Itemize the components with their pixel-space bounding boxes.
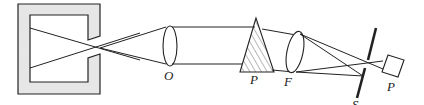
source-rays (30, 28, 140, 68)
slit-label: S (352, 97, 359, 105)
lens-o (163, 26, 177, 66)
prism (240, 18, 274, 72)
detector (382, 55, 404, 77)
lens-o-label: O (164, 68, 174, 83)
lens-f-label: F (283, 74, 293, 89)
parallel-beam (172, 27, 255, 64)
prism-label: P (249, 72, 258, 87)
spectrometer-diagram: O P F S P (0, 0, 424, 105)
detector-label: P (386, 79, 395, 94)
source-housing (18, 4, 100, 94)
